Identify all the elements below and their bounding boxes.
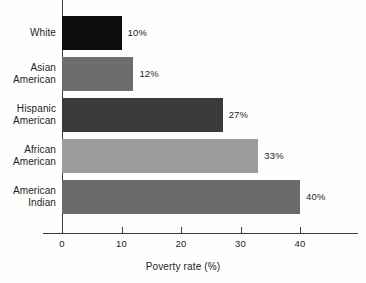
category-label-american-indian: American Indian bbox=[0, 185, 56, 208]
bar-value-asian-american: 12% bbox=[139, 57, 159, 91]
bar-hispanic-american bbox=[62, 98, 223, 132]
category-label-line1: Hispanic bbox=[0, 103, 56, 115]
x-axis-title: Poverty rate (%) bbox=[0, 261, 366, 272]
category-label-hispanic-american: Hispanic American bbox=[0, 103, 56, 126]
category-label-asian-american: Asian American bbox=[0, 62, 56, 85]
x-axis-tick-label-10: 10 bbox=[116, 238, 127, 249]
bar-white bbox=[62, 16, 122, 50]
bar-value-african-american: 33% bbox=[264, 139, 284, 173]
poverty-rate-bar-chart: White 10% Asian American 12% Hispanic Am… bbox=[0, 0, 366, 283]
x-axis-tick-mark-20 bbox=[181, 227, 182, 233]
bar-american-indian bbox=[62, 180, 300, 214]
category-label-white: White bbox=[0, 27, 56, 39]
x-axis-tick-mark-40 bbox=[300, 227, 301, 233]
category-label-line1: Asian bbox=[0, 62, 56, 74]
category-label-line2: American bbox=[0, 156, 56, 168]
bar-african-american bbox=[62, 139, 258, 173]
bar-value-american-indian: 40% bbox=[306, 180, 326, 214]
category-label-line1: African bbox=[0, 144, 56, 156]
category-label-line2: American bbox=[0, 115, 56, 127]
x-axis-tick-label-40: 40 bbox=[295, 238, 306, 249]
bar-asian-american bbox=[62, 57, 133, 91]
x-axis-tick-mark-10 bbox=[122, 227, 123, 233]
bar-value-white: 10% bbox=[128, 16, 148, 50]
x-axis-tick-label-0: 0 bbox=[59, 238, 64, 249]
category-label-african-american: African American bbox=[0, 144, 56, 167]
x-axis-tick-mark-0 bbox=[62, 227, 63, 233]
category-label-line1: American bbox=[0, 185, 56, 197]
x-axis-tick-label-30: 30 bbox=[235, 238, 246, 249]
x-axis-tick-label-20: 20 bbox=[176, 238, 187, 249]
x-axis-tick-mark-30 bbox=[241, 227, 242, 233]
category-label-line1: White bbox=[0, 27, 56, 39]
x-axis-line bbox=[43, 233, 358, 234]
plot-area: White 10% Asian American 12% Hispanic Am… bbox=[0, 0, 366, 283]
category-label-line2: American bbox=[0, 74, 56, 86]
category-label-line2: Indian bbox=[0, 197, 56, 209]
bar-value-hispanic-american: 27% bbox=[229, 98, 249, 132]
